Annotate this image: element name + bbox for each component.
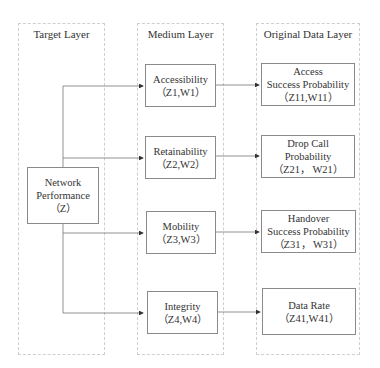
node-label: Access <box>293 65 323 78</box>
node-label: Data Rate <box>288 299 330 312</box>
node-code: （Z2,W2） <box>156 158 205 171</box>
node-code: （Z41,W41） <box>279 312 339 325</box>
node-code: （Z4,W4） <box>158 313 207 326</box>
node-code: （Z31， W31） <box>274 238 344 251</box>
node-label: Success Probability <box>267 78 350 91</box>
accessibility-node: Accessibility （Z1,W1） <box>145 64 216 107</box>
node-code: （Z） <box>50 202 76 215</box>
node-label: Accessibility <box>153 73 208 86</box>
node-code: （Z3,W3） <box>156 233 205 246</box>
integrity-node: Integrity （Z4,W4） <box>147 291 218 334</box>
node-code: （Z11,W11） <box>278 91 337 104</box>
node-label: Probability <box>285 150 332 163</box>
node-label: Network <box>45 176 82 189</box>
node-label: Integrity <box>164 300 200 313</box>
node-label: Mobility <box>163 220 200 233</box>
node-code: （Z21， W21） <box>273 163 343 176</box>
access-success-probability-node: Access Success Probability （Z11,W11） <box>261 63 355 106</box>
node-label: Drop Call <box>287 137 329 150</box>
data-rate-node: Data Rate （Z41,W41） <box>262 288 356 335</box>
network-performance-node: Network Performance （Z） <box>27 167 99 224</box>
node-label: Retainability <box>153 145 207 158</box>
node-code: （Z1,W1） <box>156 86 205 99</box>
retainability-node: Retainability （Z2,W2） <box>145 136 216 179</box>
node-label: Success Probability <box>267 225 350 238</box>
handover-success-probability-node: Handover Success Probability （Z31， W31） <box>261 210 356 253</box>
mobility-node: Mobility （Z3,W3） <box>146 211 216 254</box>
node-label: Handover <box>288 212 329 225</box>
node-label: Performance <box>36 189 90 202</box>
drop-call-probability-node: Drop Call Probability （Z21， W21） <box>261 135 355 178</box>
